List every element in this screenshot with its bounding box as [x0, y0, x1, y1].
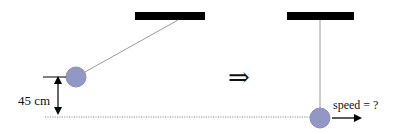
right-ceiling-bar [287, 12, 354, 20]
final-state: speed = ? [287, 12, 378, 128]
left-ceiling-bar [135, 12, 205, 20]
speed-label: speed = ? [333, 98, 378, 112]
implies-arrow-icon: ⇒ [228, 63, 250, 92]
height-label: 45 cm [18, 93, 50, 108]
right-pendulum-bob [310, 108, 330, 128]
pendulum-diagram: 45 cm ⇒ speed = ? [0, 0, 400, 134]
left-pendulum-bob [66, 67, 86, 87]
left-pendulum-string [85, 20, 178, 72]
diagram-canvas: 45 cm ⇒ speed = ? [0, 0, 400, 134]
height-marker: 45 cm [18, 77, 66, 113]
initial-state [66, 12, 205, 87]
